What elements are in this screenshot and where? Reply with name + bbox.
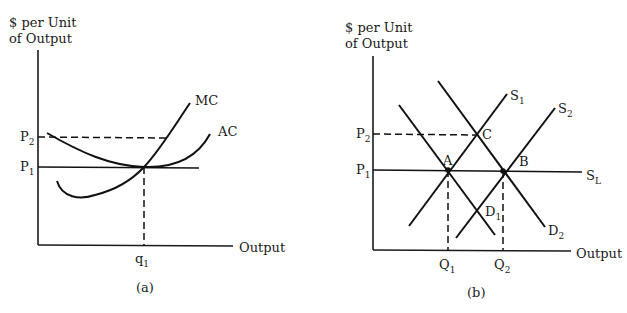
panel-b-s2-label: S2 (558, 101, 573, 119)
panel-b-d1-label: D1 (485, 204, 501, 222)
panel-a-caption: (a) (136, 280, 154, 295)
panel-b-caption: (b) (467, 285, 485, 300)
panel-a-y-axis-label-line1: $ per Unit (9, 15, 77, 30)
panel-b-sl-label: SL (586, 168, 601, 186)
panel-b-q2-label: Q2 (494, 257, 510, 275)
panel-a-p1-label: P1 (20, 159, 34, 177)
panel-b-y-axis-label-line2: of Output (345, 36, 409, 51)
panel-b-sl-line (373, 170, 582, 172)
panel-b-p2-label: P2 (356, 126, 370, 144)
panel-a-p1-line (38, 167, 199, 168)
panel-a-y-axis-label-line2: of Output (9, 31, 73, 46)
panel-b-point-b-label: B (519, 154, 529, 169)
panel-b-y-axis-label-line1: $ per Unit (345, 20, 413, 35)
panel-b: $ per Unit of Output Output P2 P1 SL Q1 … (345, 20, 623, 300)
panel-a-p2-label: P2 (20, 129, 34, 147)
diagram-canvas: $ per Unit of Output Output P2 P1 q1 MC … (0, 0, 627, 313)
panel-a-mc-curve (57, 103, 190, 197)
panel-b-point-c-label: C (482, 127, 492, 142)
panel-a-ac-label: AC (217, 124, 237, 139)
panel-a: $ per Unit of Output Output P2 P1 q1 MC … (9, 15, 286, 295)
panel-b-point-a-label: A (442, 153, 453, 168)
panel-a-q1-label: q1 (135, 251, 149, 269)
panel-a-x-axis (38, 245, 233, 246)
panel-b-s1-label: S1 (510, 88, 525, 106)
panel-b-p1-label: P1 (356, 162, 370, 180)
panel-b-point-a (445, 167, 451, 173)
panel-b-d2-label: D2 (548, 223, 564, 241)
panel-b-x-axis-label: Output (576, 246, 623, 261)
panel-b-p2-dashed-line (373, 134, 477, 135)
panel-b-point-b (500, 168, 506, 174)
panel-a-x-axis-label: Output (239, 240, 286, 255)
panel-b-q1-label: Q1 (439, 257, 455, 275)
panel-b-x-axis (373, 250, 571, 251)
panel-a-mc-label: MC (195, 93, 218, 108)
